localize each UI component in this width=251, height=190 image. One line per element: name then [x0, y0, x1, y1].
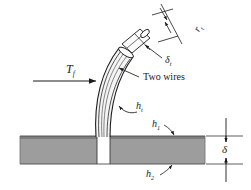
figure-canvas: rt δt Two wires ht Tf h1 h2 δ [0, 0, 251, 190]
bottom-coefficient-leader [160, 165, 172, 175]
curved-tube [96, 28, 151, 137]
tube-coefficient-arrow [119, 106, 137, 113]
label-top-coefficient: h1 [152, 118, 160, 131]
label-flow-temperature: Tf [66, 62, 75, 78]
slab-left-body [20, 136, 97, 164]
radius-tick-lower [158, 36, 178, 42]
label-slab-thickness: δ [222, 143, 227, 155]
top-coefficient-leader [164, 125, 174, 135]
tube-coefficient-leader [119, 106, 137, 113]
bottom-coefficient-arrow [160, 165, 172, 175]
label-tube-thickness: δt [165, 54, 171, 67]
slab [20, 136, 205, 164]
label-bottom-coefficient: h2 [146, 168, 154, 181]
diagram-svg [0, 0, 251, 190]
top-coefficient-arrow [164, 125, 174, 135]
label-two-wires: Two wires [143, 71, 185, 82]
slab-hole [97, 136, 110, 164]
radius-dimension [152, 4, 182, 44]
slab-right-body [110, 136, 205, 164]
label-tube-coefficient: ht [136, 100, 143, 113]
radius-arrow-up [165, 22, 171, 33]
